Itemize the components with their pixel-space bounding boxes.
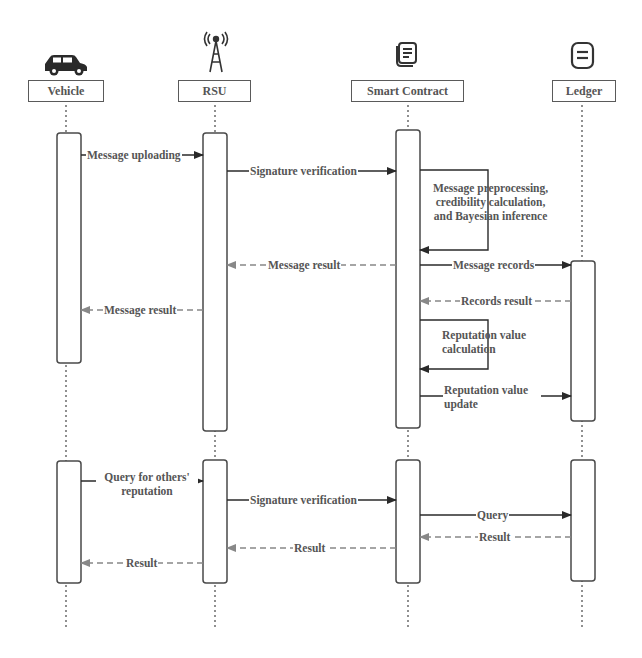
msg-message-uploading: Message uploading [86,148,182,162]
msg-reputation-update-line1: Reputation value [444,383,540,397]
msg-message-result-rsu: Message result [267,258,341,272]
actor-label: Smart Contract [367,84,448,99]
msg-result-ledger: Result [478,530,511,544]
msg-result-rsu: Result [293,541,326,555]
activation-rsu-1 [203,133,227,431]
msg-result-vehicle: Result [125,556,158,570]
msg-message-result-vehicle: Message result [103,303,177,317]
msg-preprocessing-line1: Message preprocessing, [423,181,558,195]
msg-signature-verification-2: Signature verification [249,493,358,507]
actor-ledger: Ledger [552,80,616,102]
activation-vehicle-1 [57,133,81,363]
msg-signature-verification: Signature verification [249,164,358,178]
msg-reputation-update-line2: update [444,397,540,411]
activation-rsu-2 [203,460,227,583]
actor-label: Ledger [566,84,603,99]
msg-reputation-calculation: Reputation value calculation [441,328,543,356]
activation-ledger-2 [571,460,595,581]
msg-query-reputation: Query for others' reputation [96,470,198,498]
actor-rsu: RSU [178,80,251,102]
activation-vehicle-2 [57,461,81,583]
car-icon [45,55,87,76]
actor-label: RSU [202,84,226,99]
msg-preprocessing: Message preprocessing, credibility calcu… [422,181,559,223]
actor-smart-contract: Smart Contract [351,80,464,102]
msg-query-reputation-line1: Query for others' [97,470,197,484]
msg-reputation-calculation-line1: Reputation value [442,328,542,342]
msg-reputation-update: Reputation value update [443,383,541,411]
ledger-icon [572,43,593,68]
actor-label: Vehicle [48,84,85,99]
msg-records-result: Records result [460,294,533,308]
msg-preprocessing-line3: and Bayesian inference [423,209,558,223]
document-stack-icon [397,43,416,66]
activation-ledger-1 [571,261,595,421]
msg-message-records: Message records [452,258,535,272]
msg-reputation-calculation-line2: calculation [442,342,542,356]
antenna-tower-icon [205,32,228,72]
actor-vehicle: Vehicle [28,80,104,102]
activation-smart-contract-2 [396,460,420,583]
activation-smart-contract-1 [396,130,420,428]
msg-preprocessing-line2: credibility calculation, [423,195,558,209]
msg-query-reputation-line2: reputation [97,484,197,498]
msg-query: Query [476,508,509,522]
